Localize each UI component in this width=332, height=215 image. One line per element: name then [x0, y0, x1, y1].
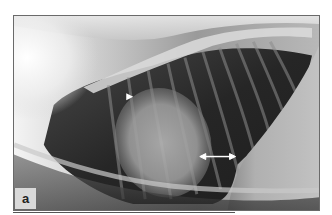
panel-label: a — [15, 188, 36, 209]
radiograph-figure: a — [13, 15, 320, 211]
caption-rule — [13, 212, 235, 213]
thoracic-radiograph-image — [14, 16, 319, 210]
